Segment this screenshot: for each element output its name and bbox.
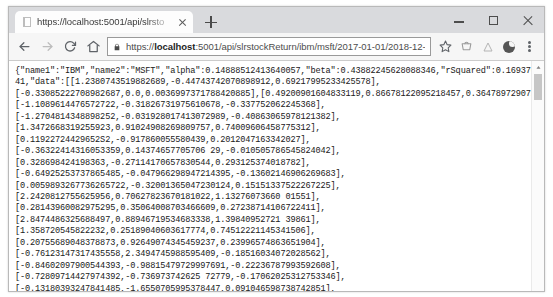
close-tab-icon[interactable]: [176, 16, 189, 29]
lock-icon: [113, 42, 121, 52]
url-scheme: https://: [126, 41, 154, 52]
json-line: [2.2420812755625956,0.70627823670181022,…: [15, 192, 525, 203]
scroll-up-arrow-icon[interactable]: [532, 61, 544, 73]
forward-button[interactable]: [36, 35, 59, 58]
json-response-text: {"name1":"IBM","name2":"MSFT","alpha":0.…: [9, 61, 531, 291]
json-line: [0.328698424198363,-0.27114170657830544,…: [15, 158, 525, 169]
profile-avatar[interactable]: [498, 36, 519, 57]
browser-window: https://localhost:5001/api/slrsto: [8, 6, 545, 292]
url-host: localhost: [154, 41, 195, 52]
json-line: [-0.36322414316053359,0.14374657705706 2…: [15, 146, 525, 157]
url-path: :5001/api/slrstockReturn/ibm/msft/2017-0…: [195, 41, 425, 52]
json-line: [0.28143960082975295,0.35064008703466609…: [15, 203, 525, 214]
json-line: {"name1":"IBM","name2":"MSFT","alpha":0.…: [15, 66, 525, 77]
extension-generic-icon[interactable]: [477, 36, 498, 57]
browser-menu-button[interactable]: [519, 36, 540, 57]
scrollbar-thumb[interactable]: [534, 74, 542, 100]
new-tab-button[interactable]: [201, 12, 221, 32]
page-content: {"name1":"IBM","name2":"MSFT","alpha":0.…: [9, 61, 544, 291]
address-bar[interactable]: https://localhost:5001/api/slrstockRetur…: [107, 37, 431, 56]
address-bar-text: https://localhost:5001/api/slrstockRetur…: [126, 40, 425, 53]
bookmark-star-icon[interactable]: [435, 36, 456, 57]
json-line: [-0.33085222708982687,0.0,0.003699737178…: [15, 89, 525, 100]
json-line: [1.3472668319255923,0.91024908269809757,…: [15, 123, 525, 134]
json-line: [0.11922724429652S2,-0.917860055580439,0…: [15, 135, 525, 146]
json-line: [-0.13180393247841485,-1.655070599537844…: [15, 284, 525, 291]
json-line: 41,"data":[[1.2380743519882689,-0.447437…: [15, 77, 525, 88]
browser-tab[interactable]: https://localhost:5001/api/slrsto: [15, 11, 193, 33]
json-line: [0.20755689048378873,0.92649074345459237…: [15, 238, 525, 249]
vertical-scrollbar[interactable]: [531, 61, 544, 291]
json-line: [1.358720545822232,0.25189040603617774,0…: [15, 226, 525, 237]
json-line: [-0.76123147317435558,2.3494745988595409…: [15, 249, 525, 260]
json-line: [-0.72809714427974392,-0.736973742625 72…: [15, 272, 525, 283]
json-line: [-1.2704814348898252,-0.0319280174130729…: [15, 112, 525, 123]
window-controls: [442, 7, 544, 33]
back-button[interactable]: [13, 35, 36, 58]
page-favicon-icon: [21, 17, 32, 28]
reload-button[interactable]: [59, 35, 82, 58]
tab-strip: https://localhost:5001/api/slrsto: [9, 7, 544, 33]
extension-shopping-icon[interactable]: [456, 36, 477, 57]
maximize-window-button[interactable]: [476, 7, 510, 33]
json-line: [-0.84602097900544393,-0.988154797299976…: [15, 261, 525, 272]
home-button[interactable]: [82, 35, 105, 58]
json-line: [0.0059893267736265722,-0.32001365047230…: [15, 181, 525, 192]
tab-title: https://localhost:5001/api/slrsto: [37, 16, 174, 28]
json-line: [2.8474486325688497,0.88946719534683338,…: [15, 215, 525, 226]
browser-toolbar: https://localhost:5001/api/slrstockRetur…: [9, 33, 544, 61]
minimize-window-button[interactable]: [442, 7, 476, 33]
json-line: [-1.1089614476572722,-0.3182673197561067…: [15, 100, 525, 111]
close-window-button[interactable]: [510, 7, 544, 33]
json-line: [-0.64925253737865485,-0.047966298947214…: [15, 169, 525, 180]
